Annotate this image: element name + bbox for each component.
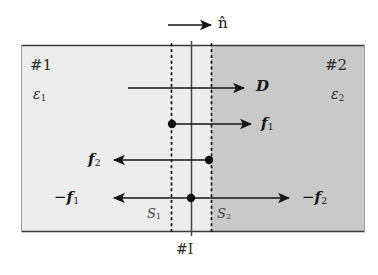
displacement-label: D [256, 79, 269, 94]
neg-force2-label: −f2 [302, 190, 327, 205]
normal-vector-label: n̂ [218, 16, 228, 31]
physics-diagram [0, 0, 378, 275]
interface-origin-dot [187, 194, 195, 202]
surface2-label: S2 [217, 207, 231, 222]
region1-label: #1 [30, 58, 52, 73]
permittivity1-label: ε1 [33, 87, 46, 102]
region2-label: #2 [325, 58, 347, 73]
force1-origin-dot [168, 120, 176, 128]
surface1-label: S1 [147, 207, 161, 222]
force2-label: f2 [88, 152, 101, 167]
force1-label: f1 [261, 116, 274, 131]
permittivity2-label: ε2 [331, 87, 344, 102]
neg-force1-label: −f1 [54, 190, 79, 205]
interface-label: #I [176, 242, 193, 256]
force2-origin-dot [205, 156, 213, 164]
